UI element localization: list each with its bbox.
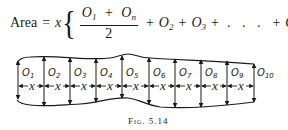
interval-label: x <box>28 78 35 93</box>
interval-label: x <box>54 78 61 93</box>
top-boundary-curve <box>17 54 254 64</box>
ordinate-labels: O1 O2 O3 O4 O5 O6 O7 O8 O9 O10 <box>22 67 274 80</box>
interval-label: x <box>80 78 87 93</box>
ordinate-label: O10 <box>257 67 274 80</box>
interval-label: x <box>185 78 192 93</box>
interval-label: x <box>211 78 218 93</box>
interval-label: x <box>132 78 139 93</box>
interval-label: x <box>159 78 166 93</box>
interval-labels: x x x x x x x x x <box>28 78 244 93</box>
figure-caption: Fig. 5.14 <box>128 116 169 126</box>
bottom-boundary-curve <box>17 98 254 108</box>
mid-ordinate-figure: x x x x x x x x x O1 O2 O3 O4 O5 O6 O7 O… <box>0 0 288 130</box>
interval-label: x <box>106 78 113 93</box>
interval-label: x <box>237 78 244 93</box>
